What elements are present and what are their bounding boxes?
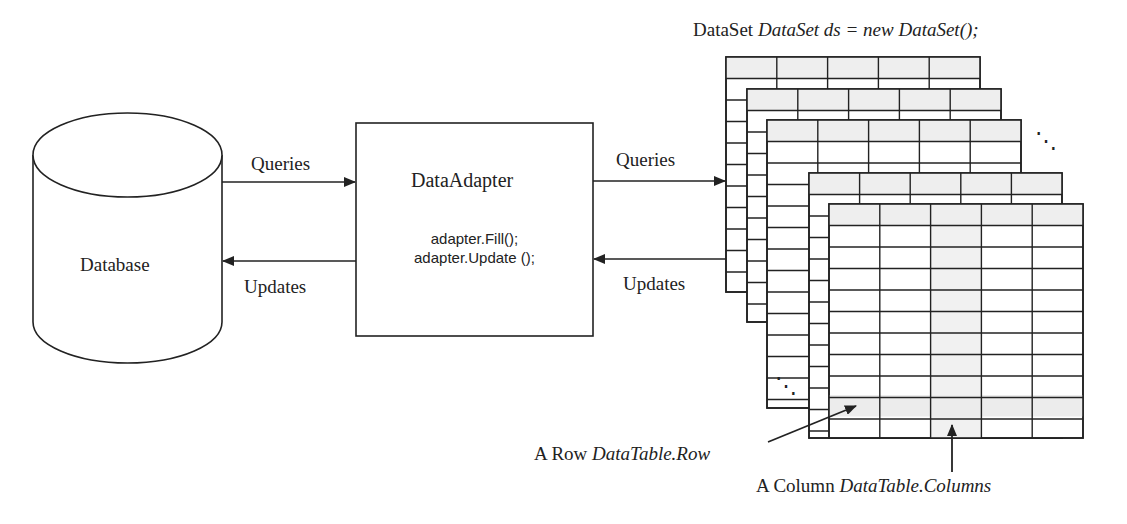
ellipsis-top-right: ⋱ <box>1035 130 1057 152</box>
column-annotation-prefix: A Column <box>756 475 835 496</box>
right-updates-label: Updates <box>623 274 685 293</box>
adapter-update-method: adapter.Update (); <box>356 248 593 267</box>
adapter-methods: adapter.Fill(); adapter.Update (); <box>356 229 593 267</box>
left-updates-label: Updates <box>244 277 306 296</box>
ellipsis-bottom-left: ⋱ <box>775 375 797 397</box>
row-annotation: A Row DataTable.Row <box>534 444 710 463</box>
adapter-fill-method: adapter.Fill(); <box>356 229 593 248</box>
database-label: Database <box>80 255 150 274</box>
dataset-caption: DataSet DataSet ds = new DataSet(); <box>693 20 979 39</box>
row-annotation-code: DataTable.Row <box>592 443 710 464</box>
database-cylinder-icon <box>33 113 222 363</box>
left-queries-label: Queries <box>251 154 310 173</box>
column-annotation: A Column DataTable.Columns <box>756 476 991 495</box>
column-annotation-code: DataTable.Columns <box>839 475 991 496</box>
row-annotation-prefix: A Row <box>534 443 587 464</box>
dataset-caption-prefix: DataSet <box>693 19 753 40</box>
data-table-5 <box>829 204 1083 438</box>
dataset-caption-code: DataSet ds = new DataSet(); <box>758 19 979 40</box>
adapter-title: DataAdapter <box>411 170 513 190</box>
right-queries-label: Queries <box>616 150 675 169</box>
